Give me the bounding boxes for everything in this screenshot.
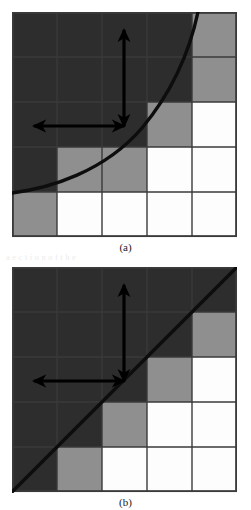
grid-cell-dark-r2c1 bbox=[12, 312, 57, 357]
grid-b-canvas bbox=[12, 267, 237, 493]
grid-cell-gray-r2c5 bbox=[192, 312, 237, 357]
grid-cell-white-r4c5 bbox=[192, 402, 237, 447]
grid-cell-gray-r4c2 bbox=[57, 147, 102, 192]
grid-cell-gray-r2c5 bbox=[192, 57, 237, 102]
grid-cell-white-r4c5 bbox=[192, 147, 237, 192]
caption-b: (b) bbox=[0, 496, 251, 508]
grid-cell-white-r5c2 bbox=[57, 192, 102, 237]
grid-a-canvas bbox=[12, 12, 237, 238]
grid-cell-dark-r1c2 bbox=[57, 267, 102, 312]
caption-a: (a) bbox=[0, 241, 251, 253]
grid-cell-white-r3c5 bbox=[192, 102, 237, 147]
grid-cell-white-r5c5 bbox=[192, 447, 237, 492]
grid-cell-white-r3c5 bbox=[192, 357, 237, 402]
grid-cell-dark-r2c2 bbox=[57, 57, 102, 102]
grid-cell-dark-r2c2 bbox=[57, 312, 102, 357]
grid-cell-white-r5c5 bbox=[192, 192, 237, 237]
grid-cell-white-r4c4 bbox=[147, 147, 192, 192]
grid-a bbox=[12, 12, 237, 238]
grid-cell-gray-r4c3 bbox=[102, 402, 147, 447]
figure-panel-b: (b) bbox=[0, 255, 251, 510]
grid-cell-gray-r1c5 bbox=[192, 12, 237, 57]
grid-cell-gray-r3c4 bbox=[147, 357, 192, 402]
grid-cell-dark-r4c1 bbox=[12, 402, 57, 447]
grid-cell-dark-r2c1 bbox=[12, 57, 57, 102]
figure-panel-a: (a) bbox=[0, 0, 251, 255]
grid-cell-dark-r1c4 bbox=[147, 267, 192, 312]
grid-cell-gray-r5c1 bbox=[12, 192, 57, 237]
grid-cell-dark-r1c1 bbox=[12, 12, 57, 57]
grid-cell-white-r5c3 bbox=[102, 192, 147, 237]
grid-b bbox=[12, 267, 237, 493]
grid-cell-white-r5c4 bbox=[147, 192, 192, 237]
grid-cell-dark-r2c4 bbox=[147, 57, 192, 102]
grid-cell-dark-r1c2 bbox=[57, 12, 102, 57]
grid-cell-gray-r3c4 bbox=[147, 102, 192, 147]
grid-cell-white-r4c4 bbox=[147, 402, 192, 447]
grid-cell-white-r5c3 bbox=[102, 447, 147, 492]
grid-cell-gray-r4c3 bbox=[102, 147, 147, 192]
grid-cell-white-r5c4 bbox=[147, 447, 192, 492]
grid-cell-gray-r5c2 bbox=[57, 447, 102, 492]
grid-cell-dark-r1c1 bbox=[12, 267, 57, 312]
